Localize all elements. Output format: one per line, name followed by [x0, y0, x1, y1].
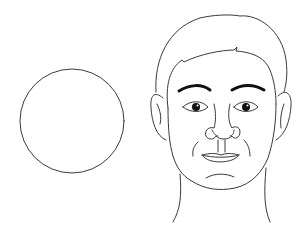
illustration-canvas	[0, 0, 308, 246]
face-drawing	[151, 15, 291, 222]
philtrum	[218, 140, 225, 152]
neck-right	[265, 168, 270, 222]
left-ear	[151, 94, 166, 140]
right-pupil-highlight	[247, 105, 249, 107]
hair-outline	[156, 15, 287, 92]
round-shape-outline	[20, 69, 124, 173]
right-eyebrow	[232, 86, 264, 91]
neck-left	[173, 174, 181, 222]
face-jaw-outline	[168, 104, 276, 189]
upper-lip	[202, 154, 239, 156]
right-ear	[276, 92, 291, 140]
hairline	[167, 47, 276, 108]
nostril-left	[212, 130, 218, 136]
left-pupil	[192, 103, 200, 111]
nose	[205, 104, 240, 139]
chin-crease	[206, 174, 234, 178]
left-eyebrow	[179, 86, 210, 91]
right-cheek-fold	[244, 140, 250, 156]
left-pupil-highlight	[197, 105, 199, 107]
right-pupil	[242, 103, 250, 111]
nostril-right	[230, 130, 234, 136]
left-cheek-fold	[193, 142, 198, 156]
